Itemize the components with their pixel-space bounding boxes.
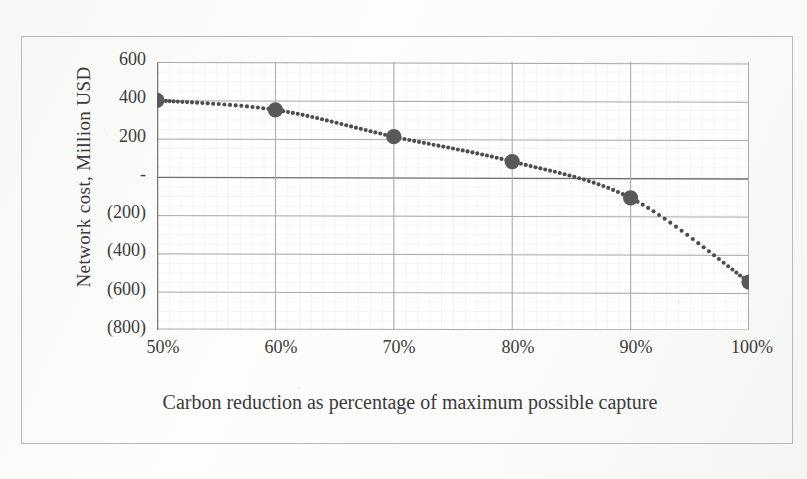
y-tick-label-200: 200 xyxy=(88,127,146,145)
x-tick-label-50: 50% xyxy=(123,338,203,356)
x-tick-label-80: 80% xyxy=(478,338,558,356)
y-tick-label-600: 600 xyxy=(88,50,146,68)
series-trail-dot xyxy=(206,101,210,105)
series-trail-dot xyxy=(485,153,489,157)
series-trail-dot xyxy=(592,181,596,185)
series-trail-dot xyxy=(441,145,445,149)
series-trail-dot xyxy=(359,127,363,131)
y-tick-label-m800: (800) xyxy=(88,318,146,336)
x-axis-title-line1: Carbon reduction as percentage of maximu… xyxy=(163,391,594,413)
series-trail-dot xyxy=(234,103,238,107)
series-trail-dot xyxy=(606,186,610,190)
series-trail-dot xyxy=(325,118,329,122)
series-trail-dot xyxy=(349,124,353,128)
series-trail-dot xyxy=(553,170,557,174)
series-trail-dot xyxy=(668,221,672,225)
series-trail-dot xyxy=(470,150,474,154)
series-trail-dot xyxy=(310,115,314,119)
series-trail-dot xyxy=(657,213,661,217)
x-axis-tick-labels: 50% 60% 70% 80% 90% 100% xyxy=(0,338,807,366)
series-trail-dot xyxy=(291,111,295,115)
series-trail-dot xyxy=(651,209,655,213)
series-trail-dot xyxy=(548,169,552,173)
series-trail-dot xyxy=(315,116,319,120)
series-trail-dot xyxy=(451,146,455,150)
x-axis-title: Carbon reduction as percentage of maximu… xyxy=(150,388,670,417)
series-trail-dot xyxy=(256,106,260,110)
series-trail-dot xyxy=(305,114,309,118)
series-trail-dot xyxy=(185,100,189,104)
data-point-marker-70[interactable]: 70%: 210 xyxy=(386,129,401,144)
series-trail-dot xyxy=(301,113,305,117)
series-trail-dot xyxy=(261,106,265,110)
series-trail-dot xyxy=(195,101,199,105)
series-trail-dot xyxy=(217,102,221,106)
y-tick-label-400: 400 xyxy=(88,88,146,106)
series-trail-dot xyxy=(412,139,416,143)
series-trail-dot xyxy=(466,149,470,153)
x-tick-label-90: 90% xyxy=(596,338,676,356)
series-trail-dot xyxy=(707,249,711,253)
y-tick-label-m400: (400) xyxy=(88,241,146,259)
series-trail-dot xyxy=(616,190,620,194)
series-trail-dot xyxy=(499,157,503,161)
series-trail-dot xyxy=(222,102,226,106)
series-trail-dot xyxy=(407,138,411,142)
series-trail-dot xyxy=(286,110,290,114)
data-point-marker-80[interactable]: 80%: 80 xyxy=(505,154,520,169)
series-trail-dot xyxy=(334,121,338,125)
series-trail-dot xyxy=(245,104,249,108)
plot-area: 50%: 40060%: 35070%: 21080%: 8090%: -110… xyxy=(157,62,749,330)
series-trail-dot xyxy=(674,225,678,229)
chart-canvas: 50%: 40060%: 35070%: 21080%: 8090%: -110… xyxy=(157,62,749,330)
series-trail-dot xyxy=(461,148,465,152)
series-trail-dot xyxy=(717,257,721,261)
series-trail-dot xyxy=(176,100,180,104)
x-tick-label-60: 60% xyxy=(241,338,321,356)
series-trail-dot xyxy=(490,155,494,159)
series-trail-dot xyxy=(691,237,695,241)
series-trail-dot xyxy=(446,146,450,150)
series-trail-dot xyxy=(339,122,343,126)
data-point-marker-60[interactable]: 60%: 350 xyxy=(268,102,283,117)
chart-page: Network cost, Million USD 600 400 200 - … xyxy=(0,0,807,479)
series-trail-dot xyxy=(475,151,479,155)
series-trail-dot xyxy=(533,165,537,169)
series-trail-dot xyxy=(190,100,194,104)
series-trail-dot xyxy=(436,144,440,148)
series-trail-dot xyxy=(582,178,586,182)
series-trail-dot xyxy=(529,164,533,168)
data-point-marker-90[interactable]: 90%: -110 xyxy=(623,190,638,205)
series-trail-dot xyxy=(567,173,571,177)
series-trail-dot xyxy=(168,99,172,103)
series-trail-dot xyxy=(685,233,689,237)
series-trail-dot xyxy=(572,175,576,179)
series-trail-dot xyxy=(712,253,716,257)
series-trail-dot xyxy=(296,112,300,116)
series-trail-dot xyxy=(524,163,528,167)
series-trail-dot xyxy=(228,103,232,107)
series-trail-dot xyxy=(538,166,542,170)
series-trail-dot xyxy=(402,137,406,141)
series-trail-dot xyxy=(427,142,431,146)
series-trail-dot xyxy=(344,123,348,127)
series-trail-dot xyxy=(368,129,372,133)
series-trail-dot xyxy=(378,132,382,136)
series-trail-dot xyxy=(738,273,742,277)
series-trail-dot xyxy=(563,172,567,176)
series-trail-dot xyxy=(696,241,700,245)
series-trail-dot xyxy=(373,130,377,134)
x-tick-label-70: 70% xyxy=(359,338,439,356)
series-trail-dot xyxy=(417,140,421,144)
y-tick-label-m200: (200) xyxy=(88,203,146,221)
series-trail-dot xyxy=(172,99,176,103)
series-trail-dot xyxy=(354,126,358,130)
series-trail-dot xyxy=(597,182,601,186)
series-trail-dot xyxy=(611,188,615,192)
y-axis-tick-labels: 600 400 200 - (200) (400) (600) (800) xyxy=(88,50,146,342)
series-trail-dot xyxy=(646,206,650,210)
series-trail-dot xyxy=(320,117,324,121)
series-trail-dot xyxy=(239,104,243,108)
series-trail-dot xyxy=(495,156,499,160)
series-trail-dot xyxy=(734,271,738,275)
